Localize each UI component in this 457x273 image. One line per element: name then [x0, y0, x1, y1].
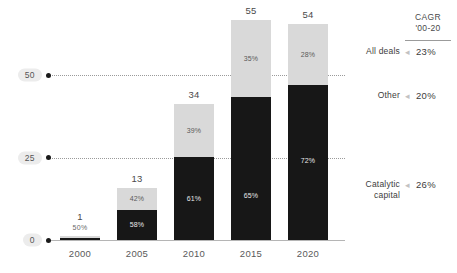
- bar-segment-catalytic-2000: [60, 238, 100, 240]
- bar-share-catalytic-2020: 72%: [301, 157, 316, 164]
- legend-row-other[interactable]: Other ◂ 20%: [348, 90, 453, 114]
- bar-total-2005: 13: [117, 173, 157, 184]
- chevron-left-icon: ◂: [405, 47, 410, 57]
- bar-group-2020[interactable]: 54 28% 72%: [288, 24, 328, 240]
- bar-share-catalytic-2005: 58%: [130, 221, 145, 228]
- bar-group-2010[interactable]: 34 39% 61%: [174, 104, 214, 240]
- legend-label-all-deals: All deals: [348, 46, 400, 57]
- y-tick-25: 25: [18, 151, 42, 164]
- legend-value-other: 20%: [416, 90, 452, 101]
- bar-segment-other-2020: 28%: [288, 24, 328, 85]
- bar-segment-catalytic-2010: 61%: [174, 157, 214, 240]
- bar-segment-catalytic-2005: 58%: [117, 210, 157, 240]
- y-tick-0: 0: [23, 234, 42, 247]
- x-label-2020: 2020: [282, 248, 334, 259]
- gridline-dot-25: [46, 155, 51, 160]
- bar-share-label-2000: 50%: [60, 224, 100, 231]
- bar-segment-other-2005: 42%: [117, 188, 157, 210]
- bar-share-catalytic-2015: 65%: [244, 192, 259, 199]
- legend-divider: [405, 40, 451, 41]
- bar-segment-catalytic-2015: 65%: [231, 97, 271, 240]
- legend-row-all-deals[interactable]: All deals ◂ 23%: [348, 46, 453, 70]
- cagr-legend-panel: CAGR '00-20 All deals ◂ 23% Other ◂ 20% …: [348, 12, 453, 227]
- bar-total-2020: 54: [288, 9, 328, 20]
- bar-group-2015[interactable]: 55 35% 65%: [231, 20, 271, 240]
- bar-segment-other-2015: 35%: [231, 20, 271, 97]
- legend-row-catalytic-capital[interactable]: Catalytic capital ◂ 26%: [348, 179, 453, 203]
- legend-header-line2: '00-20: [405, 23, 451, 34]
- x-label-2010: 2010: [168, 248, 220, 259]
- legend-value-all-deals: 23%: [416, 46, 452, 57]
- legend-label-other: Other: [348, 90, 400, 101]
- bar-segment-catalytic-2020: 72%: [288, 85, 328, 241]
- gridline-dot-0: [46, 238, 51, 243]
- bar-share-other-2015: 35%: [244, 55, 259, 62]
- bar-group-2005[interactable]: 13 42% 58%: [117, 188, 157, 240]
- bar-total-2000: 1: [60, 211, 100, 222]
- legend-header-line1: CAGR: [405, 12, 451, 23]
- gridline-dot-50: [46, 73, 51, 78]
- bar-share-catalytic-2010: 61%: [187, 195, 202, 202]
- y-tick-50: 50: [18, 69, 42, 82]
- chevron-left-icon: ◂: [405, 180, 410, 190]
- bar-segment-other-2010: 39%: [174, 104, 214, 157]
- plot-area: 1 50% 13 42% 58% 34 39% 61%: [48, 12, 345, 240]
- chevron-left-icon: ◂: [405, 91, 410, 101]
- stacked-bar-chart: 50 25 0 1 50% 13 42% 58%: [0, 0, 457, 273]
- x-label-2005: 2005: [111, 248, 163, 259]
- bar-total-2015: 55: [231, 5, 271, 16]
- x-label-2015: 2015: [225, 248, 277, 259]
- bar-total-2010: 34: [174, 89, 214, 100]
- legend-label-catalytic-capital: Catalytic capital: [348, 179, 400, 200]
- bar-share-other-2020: 28%: [301, 51, 316, 58]
- bar-share-other-2010: 39%: [187, 127, 202, 134]
- legend-value-catalytic-capital: 26%: [416, 179, 452, 190]
- bar-group-2000[interactable]: 1 50%: [60, 236, 100, 240]
- legend-header: CAGR '00-20: [405, 12, 451, 34]
- bar-share-other-2005: 42%: [130, 195, 145, 202]
- x-label-2000: 2000: [54, 248, 106, 259]
- axis-baseline: [48, 240, 345, 241]
- y-axis: 50 25 0: [8, 12, 42, 240]
